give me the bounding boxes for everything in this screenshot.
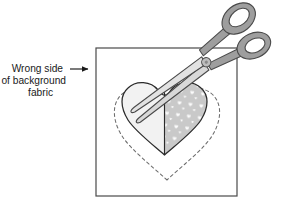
callout-line-1: Wrong side [12, 63, 64, 74]
callout-line-2: of background [1, 75, 66, 86]
illustration-root: Wrong side of background fabric [0, 0, 285, 210]
callout-line-3: fabric [28, 87, 53, 98]
figure-canvas: Wrong side of background fabric [0, 0, 285, 210]
